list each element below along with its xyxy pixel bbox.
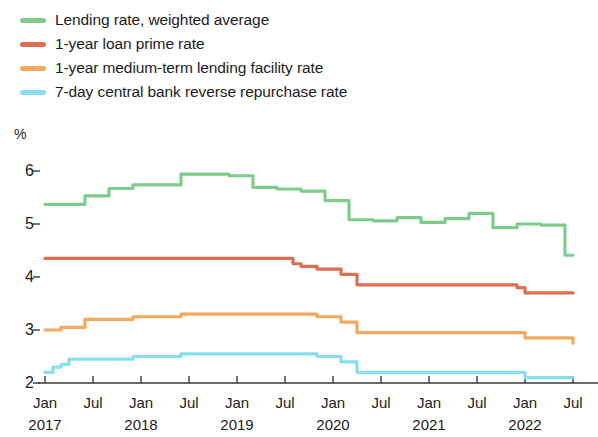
y-tick-label-2: 2	[12, 375, 34, 391]
y-tick-label-3: 3	[12, 322, 34, 338]
series-line-lending-rate-weighted-average	[45, 174, 573, 255]
x-tick-label-jul-2020: Jul	[356, 395, 406, 410]
x-tick-label-jan-2017: Jan	[20, 395, 70, 410]
x-tick-label-jan-2020: Jan	[308, 395, 358, 410]
series-line-1-year-loan-prime-rate	[45, 258, 573, 292]
series-layer	[45, 174, 573, 378]
chart-container: Lending rate, weighted average 1-year lo…	[0, 0, 598, 437]
y-tick-label-4: 4	[12, 269, 34, 285]
x-year-label-2017: 2017	[20, 417, 70, 432]
x-tick-label-jul-2018: Jul	[164, 395, 214, 410]
x-year-label-2019: 2019	[212, 417, 262, 432]
y-tick-label-5: 5	[12, 216, 34, 232]
series-line-7-day-central-bank-reverse-repurchase-rate	[45, 354, 573, 378]
x-tick-label-jan-2019: Jan	[212, 395, 262, 410]
x-tick-label-jan-2022: Jan	[500, 395, 550, 410]
x-year-label-2020: 2020	[308, 417, 358, 432]
x-tick-label-jul-2019: Jul	[260, 395, 310, 410]
y-tick-label-6: 6	[12, 163, 34, 179]
x-tick-label-jul-2021: Jul	[452, 395, 502, 410]
x-year-label-2018: 2018	[116, 417, 166, 432]
x-year-label-2021: 2021	[404, 417, 454, 432]
plot-area	[0, 0, 598, 437]
x-tick-label-jul-2022: Jul	[548, 395, 598, 410]
x-tick-label-jan-2021: Jan	[404, 395, 454, 410]
axis-layer	[33, 171, 598, 383]
x-year-label-2022: 2022	[500, 417, 550, 432]
series-line-1-year-medium-term-lending-facility-rate	[45, 314, 573, 343]
x-tick-label-jul-2017: Jul	[68, 395, 118, 410]
x-tick-label-jan-2018: Jan	[116, 395, 166, 410]
